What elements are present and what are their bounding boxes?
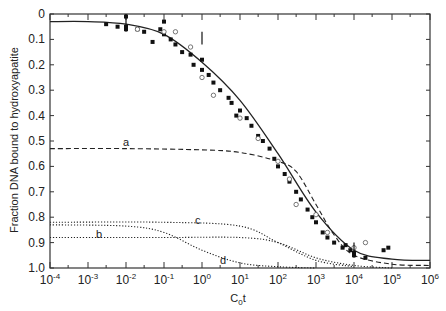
filled-point [162,20,166,24]
tick-labels: 00.10.20.30.40.50.60.70.80.91.010-410-31… [28,7,439,287]
filled-point [238,109,242,113]
filled-point [344,243,348,247]
data-points [104,14,390,260]
filled-point [189,53,193,57]
open-point [314,212,318,216]
filled-point [169,37,173,41]
x-tick-label: 104 [345,272,363,287]
x-tick-label: 100 [193,272,211,287]
filled-point [294,190,298,194]
y-tick-label: 0.6 [28,159,45,173]
filled-point [386,246,390,250]
y-tick-label: 0.9 [28,236,45,250]
filled-point [200,68,204,72]
open-point [294,202,298,206]
chart: 00.10.20.30.40.50.60.70.80.91.010-410-31… [0,0,446,311]
filled-point [332,241,336,245]
x-tick-label: 102 [269,272,287,287]
y-tick-label: 0.1 [28,32,45,46]
filled-point [200,58,204,62]
plot-frame [50,14,430,268]
open-point [188,45,192,49]
axes [50,14,430,268]
y-tick-label: 0.8 [28,210,45,224]
curve-label-d: d [220,254,226,266]
filled-point [142,30,146,34]
curve-label-c: c [195,214,201,226]
filled-point [116,25,120,29]
y-tick-label: 0.5 [28,134,45,148]
open-point [238,116,242,120]
y-tick-label: 0 [38,7,45,21]
open-point [211,93,215,97]
filled-point [314,220,318,224]
x-axis-label: C0t [230,292,245,307]
filled-point [249,124,253,128]
filled-point [180,50,184,54]
y-tick-label: 0.2 [28,58,45,72]
open-point [325,230,329,234]
filled-point [268,147,272,151]
filled-point [192,63,196,67]
open-point [162,30,166,34]
open-point [363,240,367,244]
filled-point [321,230,325,234]
y-tick-label: 0.7 [28,185,45,199]
curve-fitted [50,21,430,260]
filled-point [211,81,215,85]
series-layer [50,21,430,268]
filled-point [306,208,310,212]
filled-point [104,22,108,26]
filled-point [151,40,155,44]
filled-point [261,139,265,143]
curve-label-a: a [123,136,130,148]
filled-point [245,116,249,120]
open-point [256,136,260,140]
x-tick-label: 10-1 [154,272,175,287]
open-point [200,75,204,79]
filled-point [230,101,234,105]
filled-point [173,42,177,46]
filled-point [227,96,231,100]
x-tick-label: 10-3 [78,272,99,287]
x-tick-label: 10-4 [40,272,61,287]
filled-point [283,172,287,176]
x-tick-label: 106 [421,272,439,287]
filled-point [299,197,303,201]
open-point [173,30,177,34]
open-point [135,27,139,31]
x-tick-label: 105 [383,272,401,287]
y-tick-label: 0.4 [28,109,45,123]
curve-d [50,225,316,268]
open-point [287,177,291,181]
x-tick-label: 103 [307,272,325,287]
filled-point [218,88,222,92]
y-axis-label: Fraction DNA bound to hydroxyapatite [8,47,20,233]
filled-point [207,73,211,77]
filled-point [363,256,367,260]
y-tick-label: 0.3 [28,83,45,97]
curve-label-b: b [96,228,102,240]
x-tick-label: 10-2 [116,272,137,287]
x-tick-label: 101 [231,272,249,287]
filled-point [382,248,386,252]
filled-point [325,236,329,240]
filled-point [276,164,280,168]
curve-a [50,149,430,266]
open-point [276,159,280,163]
